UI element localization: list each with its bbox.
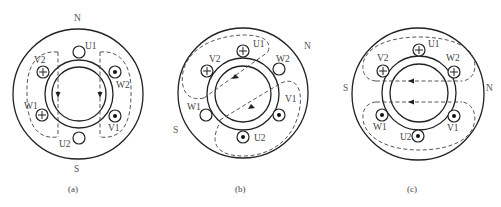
pole-south: S: [343, 83, 348, 93]
slot-V2: [37, 66, 49, 78]
slot-U1: [413, 44, 425, 56]
stator-inner-ring: [207, 58, 279, 130]
current-out-icon: [416, 134, 420, 138]
slot-W2: [273, 63, 285, 75]
flux-loop-lower: [215, 81, 300, 156]
slot-U1: [237, 45, 249, 57]
current-out-icon: [452, 114, 456, 118]
pole-south: S: [173, 125, 178, 135]
slot-U2: [412, 130, 424, 142]
panel-c: U1 V2 W2 W1 V1 U2 N S (c): [343, 28, 493, 194]
label-W2: W2: [116, 80, 130, 90]
rotor-circle: [215, 66, 271, 122]
slot-W1: [376, 109, 388, 121]
rotor-circle: [52, 67, 106, 121]
slot-V1: [273, 109, 285, 121]
label-W2: W2: [446, 53, 460, 63]
arrow-left-icon: [408, 100, 414, 105]
slot-W2: [448, 66, 460, 78]
label-V2: V2: [209, 54, 221, 64]
arrow-icon: [248, 104, 255, 109]
caption-c: (c): [407, 184, 417, 194]
caption-b: (b): [235, 184, 246, 194]
label-W1: W1: [24, 101, 38, 111]
figure: U1 V2 W2 W1 V1 U2 N S (a): [0, 0, 501, 207]
panel-a: U1 V2 W2 W1 V1 U2 N S (a): [13, 13, 143, 194]
label-V1: V1: [108, 123, 120, 133]
slot-U2: [73, 132, 85, 144]
pole-north: N: [304, 41, 311, 51]
slot-W1: [36, 109, 48, 121]
arrow-down-icon: [98, 92, 103, 98]
label-V1: V1: [285, 94, 297, 104]
label-V2: V2: [377, 53, 389, 63]
pole-south: S: [74, 164, 79, 174]
pole-north: N: [486, 83, 493, 93]
label-U1: U1: [253, 39, 265, 49]
current-out-icon: [113, 70, 117, 74]
slot-U1: [73, 46, 85, 58]
slot-V2: [201, 65, 213, 77]
current-out-icon: [241, 135, 245, 139]
label-U1: U1: [428, 39, 440, 49]
rotor-circle: [390, 64, 448, 122]
caption-a: (a): [68, 184, 78, 194]
slot-W1: [200, 109, 212, 121]
current-out-icon: [380, 113, 384, 117]
slot-V1: [448, 110, 460, 122]
label-U2: U2: [254, 133, 266, 143]
current-out-icon: [277, 113, 281, 117]
slot-W2: [109, 66, 121, 78]
pole-north: N: [74, 13, 81, 23]
label-W1: W1: [373, 122, 387, 132]
stator-inner-ring: [45, 60, 113, 128]
panel-b: U1 V2 W2 W1 V1 U2 N S (b): [173, 28, 311, 194]
label-W1: W1: [187, 102, 201, 112]
label-V1: V1: [447, 123, 459, 133]
slot-V2: [377, 65, 389, 77]
slot-V1: [109, 110, 121, 122]
slot-U2: [237, 131, 249, 143]
stator-inner-ring: [382, 56, 456, 130]
arrow-left-icon: [408, 79, 414, 84]
current-out-icon: [113, 114, 117, 118]
label-U2: U2: [400, 132, 412, 142]
arrow-icon: [232, 74, 239, 79]
label-W2: W2: [276, 54, 290, 64]
label-V2: V2: [34, 55, 46, 65]
label-U1: U1: [85, 41, 97, 51]
arrow-down-icon: [56, 92, 61, 98]
label-U2: U2: [59, 139, 71, 149]
